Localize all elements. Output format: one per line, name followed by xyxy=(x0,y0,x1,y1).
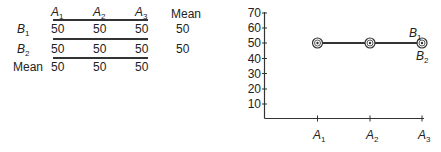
y-tick-50: 50 xyxy=(248,36,262,50)
interaction-line-chart: 70 60 50 40 30 20 10 A1 A2 A3 B1 B2 xyxy=(0,0,441,152)
x-label-a2: A2 xyxy=(365,128,379,144)
y-tick-30: 30 xyxy=(248,67,262,81)
x-label-a3: A3 xyxy=(417,128,431,144)
series-label-b2: B2 xyxy=(416,49,429,65)
y-tick-40: 40 xyxy=(248,52,262,66)
series-label-b1: B1 xyxy=(409,26,422,42)
data-point-a1 xyxy=(313,38,323,48)
y-tick-20: 20 xyxy=(248,82,262,96)
x-label-a1: A1 xyxy=(312,128,326,144)
y-tick-70: 70 xyxy=(248,6,262,20)
data-point-a2 xyxy=(365,38,375,48)
y-tick-10: 10 xyxy=(248,97,262,111)
y-tick-60: 60 xyxy=(248,21,262,35)
